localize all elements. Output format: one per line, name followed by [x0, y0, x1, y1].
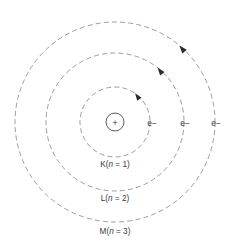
- electron-label-m: e−: [211, 118, 221, 128]
- nucleus-charge-symbol: +: [112, 117, 118, 128]
- shell-label-k-eq: =: [113, 160, 122, 169]
- shell-label-l: L(n = 2): [101, 194, 130, 203]
- electron-label-l: e−: [180, 118, 190, 128]
- shell-label-l-paren-close: ): [127, 194, 130, 203]
- bohr-model-diagram: + e− e− e− K(n = 1) L(n = 2) M(n = 3): [0, 0, 236, 252]
- arrowhead-shell-m: [177, 44, 187, 54]
- shell-label-m-eq: =: [114, 227, 123, 236]
- shell-label-m: M(n = 3): [100, 227, 131, 236]
- shell-label-k-paren-close: ): [127, 160, 130, 169]
- bohr-model-figure: + e− e− e− K(n = 1) L(n = 2) M(n = 3): [0, 0, 236, 252]
- shell-label-m-paren-close: ): [128, 227, 131, 236]
- electron-label-k: e−: [147, 118, 157, 128]
- shell-label-k: K(n = 1): [100, 160, 130, 169]
- shell-label-l-eq: =: [113, 194, 122, 203]
